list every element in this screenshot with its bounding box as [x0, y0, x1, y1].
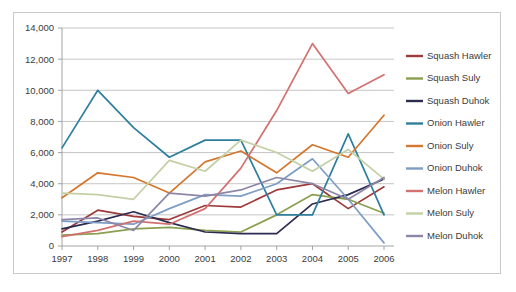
y-axis-label: 2,000 [30, 209, 54, 220]
legend-label-onion-suly: Onion Suly [427, 140, 474, 151]
legend-label-melon-duhok: Melon Duhok [427, 230, 483, 241]
x-axis-label: 2004 [302, 253, 323, 264]
line-chart: 14,00012,00010,0008,0006,0004,0002,0000 … [14, 13, 500, 273]
x-axis-label: 1997 [51, 253, 72, 264]
y-axis-label: 6,000 [30, 147, 54, 158]
legend-label-squash-suly: Squash Suly [427, 72, 481, 83]
x-axis-label: 2001 [195, 253, 216, 264]
legend-label-onion-duhok: Onion Duhok [427, 162, 483, 173]
gridlines [62, 28, 394, 215]
x-axis-label: 2000 [159, 253, 180, 264]
x-axis-label: 1998 [87, 253, 108, 264]
y-axis-label: 10,000 [25, 85, 54, 96]
x-axis-label: 2003 [266, 253, 287, 264]
x-axis-ticks [62, 246, 384, 250]
y-axis-label: 0 [49, 240, 54, 251]
chart-container: 14,00012,00010,0008,0006,0004,0002,0000 … [13, 12, 501, 274]
x-axis-labels: 1997199819992000200120022003200420052006 [51, 253, 394, 264]
y-axis-label: 8,000 [30, 116, 54, 127]
x-axis-label: 1999 [123, 253, 144, 264]
x-axis-label: 2005 [338, 253, 359, 264]
y-axis-labels: 14,00012,00010,0008,0006,0004,0002,0000 [25, 22, 54, 251]
x-axis-label: 2006 [373, 253, 394, 264]
chart-legend: Squash HawlerSquash SulySquash DuhokOnio… [406, 50, 491, 241]
legend-label-melon-suly: Melon Suly [427, 207, 474, 218]
y-axis-label: 4,000 [30, 178, 54, 189]
legend-label-squash-duhok: Squash Duhok [427, 95, 490, 106]
legend-label-onion-hawler: Onion Hawler [427, 117, 485, 128]
series-lines [62, 44, 384, 243]
y-axis-ticks [58, 28, 62, 246]
series-line-melon-suly [62, 140, 384, 199]
y-axis-label: 14,000 [25, 22, 54, 33]
y-axis-label: 12,000 [25, 54, 54, 65]
series-line-squash-hawler [62, 184, 384, 232]
legend-label-squash-hawler: Squash Hawler [427, 50, 491, 61]
legend-label-melon-hawler: Melon Hawler [427, 185, 485, 196]
x-axis-label: 2002 [230, 253, 251, 264]
